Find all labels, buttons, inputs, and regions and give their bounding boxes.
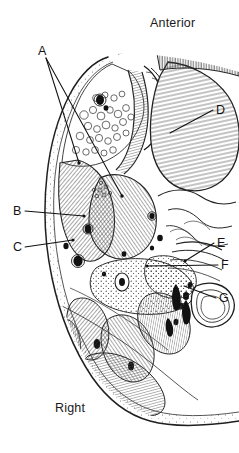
callout-label-e: E (217, 236, 225, 250)
callout-label-b: B (13, 204, 21, 218)
anatomical-section-drawing (0, 0, 239, 453)
callout-label-f: F (221, 258, 229, 272)
callout-label-c: C (13, 240, 22, 254)
leader-line-E (185, 243, 214, 261)
figure-canvas: Anterior Right A B C D E F G (0, 0, 239, 453)
callout-label-d: D (216, 103, 225, 117)
callout-label-a: A (38, 44, 46, 58)
orientation-label-anterior: Anterior (150, 16, 195, 30)
orientation-label-right: Right (55, 401, 85, 415)
callout-label-g: G (219, 291, 229, 305)
